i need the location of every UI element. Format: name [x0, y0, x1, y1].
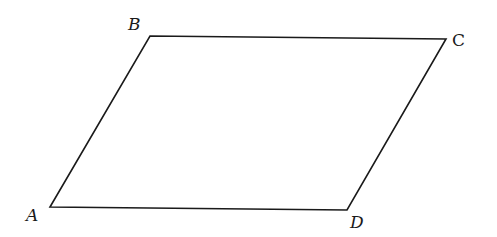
vertex-label-c: C: [452, 30, 465, 50]
vertex-label-a: A: [24, 205, 38, 225]
parallelogram-abcd: [50, 36, 446, 210]
vertex-label-d: D: [349, 212, 364, 232]
vertex-label-b: B: [127, 14, 141, 34]
parallelogram-diagram: A B C D: [0, 0, 497, 237]
